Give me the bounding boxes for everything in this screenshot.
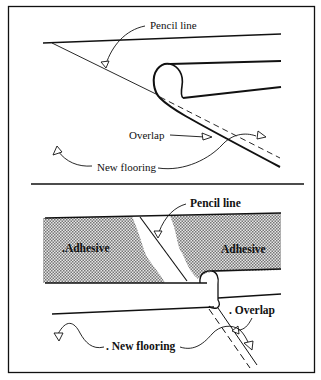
top-pencil-line-label: Pencil line — [150, 19, 197, 31]
flooring-diagram: Pencil line Overlap New flooring — [0, 0, 321, 380]
adhesive-left-label: .Adhesive — [62, 242, 110, 254]
bottom-new-flooring-label: . New flooring — [106, 340, 176, 353]
top-new-flooring-label: New flooring — [97, 161, 156, 173]
bottom-overlap-label: . Overlap — [229, 304, 275, 317]
bottom-pencil-line-label: Pencil line — [190, 197, 241, 209]
adhesive-right-label: Adhesive — [221, 243, 266, 255]
top-panel: Pencil line Overlap New flooring — [43, 19, 281, 173]
top-overlap-label: Overlap — [129, 129, 165, 141]
bottom-panel: Pencil line .Adhesive Adhesive . Overlap… — [43, 197, 281, 368]
